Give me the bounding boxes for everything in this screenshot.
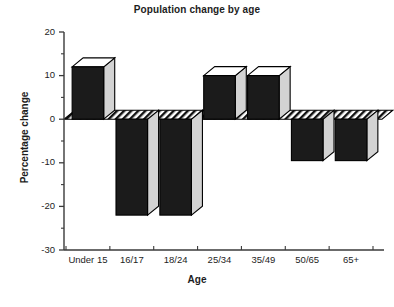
y-tick-labels: 20100-10-20-30 — [41, 26, 55, 255]
bar-under-15 — [72, 58, 115, 119]
x-tick-label: 35/49 — [251, 254, 275, 265]
x-tick-label: Under 15 — [68, 254, 107, 265]
plot-area: 20100-10-20-30 Under 1516/1718/2425/3435… — [0, 0, 394, 307]
bar-front-face — [72, 67, 104, 119]
x-tick-labels: Under 1516/1718/2425/3435/4950/6565+ — [68, 254, 359, 265]
x-tick-label: 65+ — [343, 254, 360, 265]
bar-front-face — [116, 119, 148, 215]
bar-16-17 — [116, 110, 159, 215]
bar-18-24 — [160, 110, 203, 215]
y-tick-label: -20 — [41, 200, 55, 211]
bars-group — [72, 58, 378, 215]
bar-front-face — [248, 76, 280, 120]
bar-side-face — [191, 110, 202, 215]
y-tick-label: 20 — [44, 26, 55, 37]
y-tick-label: -10 — [41, 156, 55, 167]
y-tick-label: 0 — [50, 113, 55, 124]
bar-side-face — [323, 110, 334, 160]
bar-25-34 — [204, 67, 247, 120]
x-tick-label: 50/65 — [295, 254, 319, 265]
y-tick-label: -30 — [41, 244, 55, 255]
bar-side-face — [148, 110, 159, 215]
bar-front-face — [204, 76, 236, 120]
x-tick-label: 16/17 — [120, 254, 144, 265]
y-tick-label: 10 — [44, 69, 55, 80]
bar-front-face — [160, 119, 192, 215]
bar-side-face — [367, 110, 378, 160]
x-tick-label: 18/24 — [164, 254, 188, 265]
bar-35-49 — [248, 67, 291, 120]
bar-front-face — [291, 119, 323, 160]
x-tick-label: 25/34 — [208, 254, 232, 265]
bar-side-face — [104, 58, 115, 119]
chart-figure: Population change by age Percentage chan… — [0, 0, 394, 307]
bar-front-face — [335, 119, 367, 160]
